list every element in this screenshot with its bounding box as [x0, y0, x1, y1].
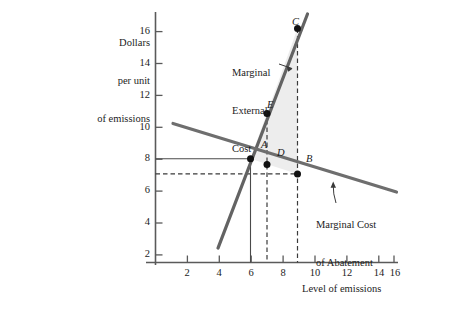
x-tick-label-2: 2 — [175, 267, 199, 279]
annotation-mca-line-1: Marginal Cost — [316, 219, 376, 232]
annotation-mec-line-2: External — [232, 105, 270, 118]
y-tick-label-2: 2 — [126, 248, 150, 260]
x-tick-label-6: 6 — [239, 267, 263, 279]
y-tick-marks — [156, 32, 163, 255]
y-tick-label-16: 16 — [126, 25, 150, 37]
annotation-mca-line-2: of Abatement — [316, 257, 376, 270]
annotation-marginal-external-cost: Marginal External Cost — [232, 42, 270, 181]
y-tick-label-6: 6 — [126, 184, 150, 196]
point-label-C: C — [292, 16, 299, 28]
point-label-D: D — [277, 147, 285, 159]
figure-container: Dollars per unit of emissions 16 14 12 1… — [0, 0, 465, 311]
y-tick-label-4: 4 — [126, 216, 150, 228]
x-tick-label-4: 4 — [207, 267, 231, 279]
point-label-B: B — [306, 153, 312, 165]
y-axis-title-line-2: per unit — [84, 75, 150, 88]
annotation-mec-line-3: Cost — [232, 143, 270, 156]
x-tick-label-8: 8 — [271, 267, 295, 279]
annotation-mec-line-1: Marginal — [232, 67, 270, 80]
y-tick-label-10: 10 — [126, 121, 150, 133]
annotation-marginal-cost-of-abatement: Marginal Cost of Abatement — [316, 194, 376, 295]
y-tick-label-12: 12 — [126, 89, 150, 101]
y-tick-label-8: 8 — [126, 152, 150, 164]
x-tick-label-16: 16 — [383, 267, 407, 279]
data-point-B — [294, 170, 301, 177]
y-tick-label-14: 14 — [126, 57, 150, 69]
y-axis-title-line-1: Dollars — [84, 37, 150, 50]
